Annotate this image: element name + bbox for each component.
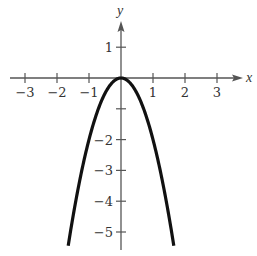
- axes: [10, 21, 243, 250]
- parabola-plot: −3−2−11231−2−3−4−5 x y: [0, 0, 257, 256]
- x-tick-label: −3: [15, 85, 34, 100]
- y-tick-label: 1: [105, 40, 113, 55]
- y-tick-label: −5: [94, 225, 113, 240]
- x-tick-label: 2: [181, 85, 189, 100]
- x-tick-label: 1: [149, 85, 157, 100]
- y-axis-label: y: [115, 3, 124, 18]
- y-tick-label: −3: [94, 163, 113, 178]
- y-tick-label: −2: [94, 133, 113, 148]
- x-tick-label: −1: [79, 85, 98, 100]
- x-tick-label: −2: [47, 85, 66, 100]
- x-tick-label: 3: [213, 85, 221, 100]
- y-tick-label: −4: [94, 194, 113, 209]
- x-axis-label: x: [245, 70, 253, 85]
